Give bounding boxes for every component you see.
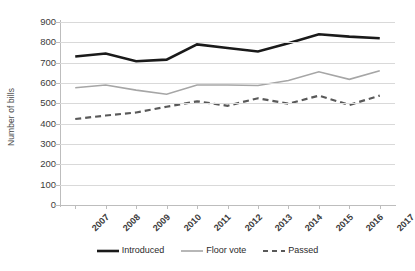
x-axis-tick-mark: [228, 205, 229, 209]
legend-swatch-icon: [97, 247, 119, 255]
y-axis-tick-mark: [55, 42, 60, 43]
x-axis-tick-mark: [106, 205, 107, 209]
legend-item-passed[interactable]: Passed: [263, 246, 318, 255]
x-axis-tick-label: 2013: [273, 212, 294, 233]
x-axis-tick-label: 2017: [395, 212, 415, 233]
line-chart: Number of bills 900800700600500400300200…: [0, 0, 415, 271]
y-axis-tick-labels: 9008007006005004003002001000: [22, 0, 56, 271]
y-axis-tick-mark: [55, 63, 60, 64]
x-axis-tick-mark: [349, 205, 350, 209]
gridline: [60, 185, 395, 186]
series-line-passed: [75, 96, 380, 119]
gridline: [60, 124, 395, 125]
gridline: [60, 83, 395, 84]
legend-label: Introduced: [122, 246, 165, 255]
legend-label: Passed: [288, 246, 318, 255]
y-axis-tick-label: 800: [22, 37, 56, 47]
x-axis-tick-mark: [75, 205, 76, 209]
chart-legend: IntroducedFloor votePassed: [0, 246, 415, 255]
y-axis-tick-mark: [55, 164, 60, 165]
y-axis-tick-label: 400: [22, 119, 56, 129]
x-axis-tick-label: 2011: [212, 212, 233, 233]
y-axis-tick-label: 500: [22, 98, 56, 108]
y-axis-tick-label: 900: [22, 17, 56, 27]
plot-area: [60, 22, 395, 205]
x-axis-tick-mark: [197, 205, 198, 209]
x-axis-tick-mark: [136, 205, 137, 209]
x-axis-tick-mark: [319, 205, 320, 209]
y-axis-tick-label: 100: [22, 180, 56, 190]
legend-item-introduced[interactable]: Introduced: [97, 246, 165, 255]
y-axis-tick-label: 600: [22, 78, 56, 88]
y-axis-tick-mark: [55, 83, 60, 84]
y-axis-tick-label: 300: [22, 139, 56, 149]
y-axis-tick-mark: [55, 205, 60, 206]
y-axis-tick-mark: [55, 144, 60, 145]
x-axis-tick-mark: [380, 205, 381, 209]
x-axis-tick-label: 2014: [303, 212, 324, 233]
gridline: [60, 22, 395, 23]
x-axis-tick-mark: [288, 205, 289, 209]
y-axis-tick-mark: [55, 22, 60, 23]
x-axis-tick-label: 2010: [181, 212, 202, 233]
gridline: [60, 164, 395, 165]
gridline: [60, 63, 395, 64]
legend-item-floor-vote[interactable]: Floor vote: [181, 246, 246, 255]
legend-swatch-icon: [263, 247, 285, 255]
legend-label: Floor vote: [206, 246, 246, 255]
x-axis-tick-label: 2012: [242, 212, 263, 233]
legend-swatch-icon: [181, 247, 203, 255]
x-axis-tick-label: 2007: [90, 212, 111, 233]
gridline: [60, 103, 395, 104]
x-axis-tick-label: 2009: [151, 212, 172, 233]
series-line-introduced: [75, 34, 380, 61]
gridline: [60, 42, 395, 43]
y-axis-tick-label: 200: [22, 159, 56, 169]
x-axis-tick-mark: [258, 205, 259, 209]
x-axis-tick-label: 2016: [364, 212, 385, 233]
y-axis-tick-mark: [55, 124, 60, 125]
gridline: [60, 144, 395, 145]
x-axis-tick-mark: [167, 205, 168, 209]
y-axis-tick-mark: [55, 185, 60, 186]
y-axis-title: Number of bills: [6, 62, 16, 172]
series-layer: [60, 22, 395, 205]
y-axis-tick-label: 700: [22, 58, 56, 68]
x-axis-tick-label: 2015: [334, 212, 355, 233]
x-axis-tick-label: 2008: [121, 212, 142, 233]
y-axis-tick-mark: [55, 103, 60, 104]
y-axis-tick-label: 0: [22, 200, 56, 210]
